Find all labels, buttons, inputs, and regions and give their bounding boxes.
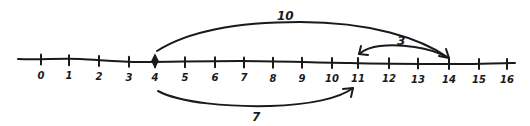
axis-tick-label: 0 — [38, 70, 45, 81]
axis-tick-label: 16 — [500, 74, 514, 85]
number-line-diagram: 012345678910111213141516 10 3 7 — [0, 0, 530, 126]
axis-tick-labels: 012345678910111213141516 — [38, 70, 514, 85]
axis-tick-label: 9 — [299, 73, 306, 84]
axis-tick-label: 11 — [351, 73, 365, 84]
axis-tick-label: 1 — [66, 70, 73, 81]
axis-tick-label: 15 — [472, 74, 486, 85]
jump-arc-7 — [158, 88, 353, 106]
axis-tick-label: 10 — [325, 73, 339, 84]
jump-label-3: 3 — [397, 34, 405, 48]
axis-tick-label: 3 — [126, 72, 133, 83]
start-point-marker — [152, 55, 158, 67]
axis-tick-label: 7 — [241, 72, 248, 83]
axis-tick-label: 8 — [270, 73, 277, 84]
axis-tick-label: 4 — [151, 72, 159, 83]
jump-label-10: 10 — [277, 9, 294, 23]
axis-tick-label: 12 — [382, 73, 396, 84]
axis-tick-label: 5 — [182, 72, 189, 83]
jump-label-7: 7 — [252, 110, 261, 124]
axis-tick-label: 2 — [96, 71, 103, 82]
axis-tick-label: 6 — [212, 72, 219, 83]
axis-tick-label: 13 — [411, 74, 425, 85]
number-line-axis — [18, 59, 515, 64]
axis-tick-label: 14 — [442, 74, 456, 85]
